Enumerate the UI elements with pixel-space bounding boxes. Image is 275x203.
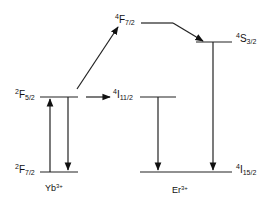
energy-level-diagram: [0, 0, 275, 203]
label-er-4s32: 4S3/2: [236, 34, 256, 44]
arrow-relaxation: [173, 23, 203, 41]
label-er-4i112: 4I11/2: [113, 90, 133, 100]
label-ion-yb: Yb3+: [45, 183, 63, 193]
label-ion-er: Er3+: [172, 185, 188, 195]
label-er-4i152: 4I15/2: [236, 165, 256, 175]
label-yb-2f72: 2F7/2: [15, 165, 35, 175]
label-yb-2f52: 2F5/2: [15, 90, 35, 100]
label-er-4f72: 4F7/2: [115, 15, 135, 25]
arrow-transfer-f72: [77, 27, 118, 89]
